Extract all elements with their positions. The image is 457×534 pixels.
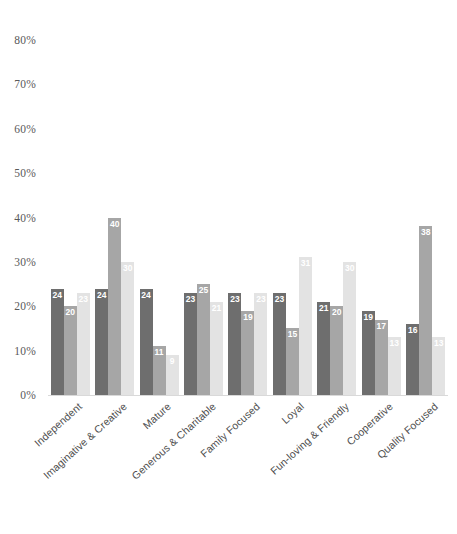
bar[interactable]: 23 (254, 293, 267, 395)
bar[interactable]: 17 (375, 320, 388, 395)
bar[interactable]: 16 (406, 324, 419, 395)
y-axis-tick-label: 50% (14, 167, 36, 179)
y-axis-tick-label: 0% (20, 389, 36, 401)
bar-value-label: 20 (65, 308, 74, 317)
y-axis: 80%70%60%50%40%30%20%10%0% (0, 40, 44, 395)
bar[interactable]: 13 (388, 337, 401, 395)
bar-group: 231531 (270, 40, 314, 395)
y-axis-tick-label: 20% (14, 300, 36, 312)
plot-area: 2420232440302411923252123192323153121203… (48, 40, 448, 395)
bar-group: 212030 (315, 40, 359, 395)
bar-value-label: 20 (332, 308, 341, 317)
bar-value-label: 23 (78, 295, 87, 304)
bar[interactable]: 31 (299, 257, 312, 395)
bar[interactable]: 20 (64, 306, 77, 395)
bar-group: 232521 (181, 40, 225, 395)
bar[interactable]: 15 (286, 328, 299, 395)
bar[interactable]: 21 (317, 302, 330, 395)
x-axis: IndependentImaginative & CreativeMatureG… (48, 396, 448, 526)
bar[interactable]: 9 (166, 355, 179, 395)
bar-value-label: 16 (408, 326, 417, 335)
bar[interactable]: 25 (197, 284, 210, 395)
bar-value-label: 25 (199, 286, 208, 295)
bar-value-label: 30 (123, 264, 132, 273)
bar[interactable]: 38 (419, 226, 432, 395)
bar[interactable]: 19 (241, 311, 254, 395)
bar-group: 24119 (137, 40, 181, 395)
bar-value-label: 30 (345, 264, 354, 273)
bar[interactable]: 23 (228, 293, 241, 395)
y-axis-tick-label: 70% (14, 78, 36, 90)
bar[interactable]: 23 (77, 293, 90, 395)
bar-value-label: 15 (288, 330, 297, 339)
bar-value-label: 23 (275, 295, 284, 304)
bar-value-label: 9 (170, 357, 175, 366)
bar[interactable]: 20 (330, 306, 343, 395)
bar[interactable]: 23 (184, 293, 197, 395)
bar-value-label: 21 (212, 304, 221, 313)
bar[interactable]: 30 (121, 262, 134, 395)
y-axis-tick-label: 60% (14, 123, 36, 135)
x-axis-tick-label: Generous & Charitable (129, 400, 218, 482)
y-axis-tick-label: 30% (14, 256, 36, 268)
bar-value-label: 23 (230, 295, 239, 304)
bar-group: 242023 (48, 40, 92, 395)
x-axis-tick-label: Loyal (279, 400, 306, 426)
bar-value-label: 19 (364, 313, 373, 322)
x-axis-tick-label: Mature (140, 400, 173, 431)
bar[interactable]: 23 (273, 293, 286, 395)
bar[interactable]: 40 (108, 218, 121, 396)
bar-value-label: 19 (243, 313, 252, 322)
y-axis-tick-label: 40% (14, 212, 36, 224)
x-axis-tick-label: Imaginative & Creative (41, 400, 129, 481)
y-axis-tick-label: 10% (14, 345, 36, 357)
bar-value-label: 13 (390, 339, 399, 348)
bar[interactable]: 21 (210, 302, 223, 395)
bar-value-label: 24 (52, 291, 61, 300)
bar-value-label: 24 (141, 291, 150, 300)
bar-value-label: 21 (319, 304, 328, 313)
bar[interactable]: 24 (51, 289, 64, 396)
y-axis-tick-label: 80% (14, 34, 36, 46)
bar-group: 191713 (359, 40, 403, 395)
bar-chart: 80%70%60%50%40%30%20%10%0% 2420232440302… (0, 0, 457, 534)
bar-value-label: 23 (256, 295, 265, 304)
bar-value-label: 40 (110, 220, 119, 229)
bar-groups: 2420232440302411923252123192323153121203… (48, 40, 448, 395)
bar-value-label: 38 (421, 228, 430, 237)
bar-value-label: 11 (155, 348, 164, 357)
bar-value-label: 31 (301, 259, 310, 268)
bar-group: 163813 (404, 40, 448, 395)
bar-value-label: 13 (434, 339, 443, 348)
bar-value-label: 23 (186, 295, 195, 304)
bar[interactable]: 11 (153, 346, 166, 395)
bar-group: 244030 (92, 40, 136, 395)
x-axis-tick-label: Fun-loving & Friendly (268, 400, 351, 477)
bar[interactable]: 24 (140, 289, 153, 396)
bar-group: 231923 (226, 40, 270, 395)
bar[interactable]: 13 (432, 337, 445, 395)
bar[interactable]: 30 (343, 262, 356, 395)
bar-value-label: 24 (97, 291, 106, 300)
bar[interactable]: 19 (362, 311, 375, 395)
bar[interactable]: 24 (95, 289, 108, 396)
bar-value-label: 17 (377, 322, 386, 331)
